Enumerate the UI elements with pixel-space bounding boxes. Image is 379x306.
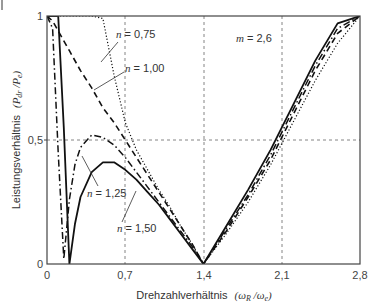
x-tick-labels: 0 0,7 1,4 2,1 2,8 xyxy=(44,269,368,281)
annotation-n075: n = 0,75 xyxy=(116,28,155,40)
x-tick-4: 2,8 xyxy=(352,269,367,281)
annotation-n125: n = 1,25 xyxy=(87,187,126,199)
x-tick-2: 1,4 xyxy=(196,269,211,281)
annotation-m: m = 2,6 xyxy=(236,32,272,44)
x-axis-title: Drehzahlverhältnis (ωR /ωe) xyxy=(136,289,272,303)
y-tick-2: 1 xyxy=(37,10,43,22)
arrow-n125 xyxy=(82,156,98,186)
y-tick-1: 0,5 xyxy=(28,134,43,146)
grid xyxy=(47,16,360,264)
x-tick-1: 0,7 xyxy=(117,269,132,281)
chart: 0 0,7 1,4 2,1 2,8 0 0,5 1 Drehzahlverhäl… xyxy=(0,0,379,306)
arrow-n100 xyxy=(94,72,124,90)
y-axis-title: Leistungsverhältnis (Pdr /Pe) xyxy=(10,70,24,209)
y-tick-0: 0 xyxy=(37,258,43,270)
annotation-n100: n = 1,00 xyxy=(125,62,164,74)
x-tick-3: 2,1 xyxy=(274,269,289,281)
annotation-n150: n = 1,50 xyxy=(117,222,156,234)
arrow-n075 xyxy=(101,42,118,62)
y-tick-labels: 0 0,5 1 xyxy=(28,10,43,270)
x-tick-0: 0 xyxy=(44,269,50,281)
